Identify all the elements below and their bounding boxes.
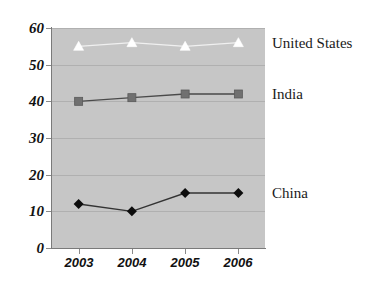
data-point [180, 188, 190, 198]
legend-label-china: China [272, 186, 308, 201]
legend-label-united-states: United States [272, 36, 352, 51]
x-axis-label: 2004 [102, 256, 162, 269]
series-line [79, 193, 239, 211]
x-axis-label: 2003 [49, 256, 109, 269]
y-axis-label: 10 [0, 204, 52, 219]
data-point [127, 206, 137, 216]
plot-area [52, 28, 265, 248]
series-layer [52, 28, 265, 248]
data-point [128, 94, 136, 102]
line-chart: 0102030405060 2003200420052006 United St… [0, 0, 381, 289]
x-axis-label: 2006 [208, 256, 268, 269]
data-point [74, 199, 84, 209]
x-axis-line [51, 248, 266, 249]
series-line [79, 94, 239, 101]
series-china [74, 188, 244, 216]
x-tick-mark-2003 [79, 249, 80, 254]
legend-label-india: India [272, 87, 303, 102]
y-axis-label: 20 [0, 168, 52, 183]
series-india [75, 90, 243, 105]
series-line [79, 43, 239, 47]
x-tick-mark-2004 [132, 249, 133, 254]
data-point [233, 188, 243, 198]
data-point [234, 90, 242, 98]
y-axis-label: 0 [0, 241, 52, 256]
x-axis-label: 2005 [155, 256, 215, 269]
y-axis-label: 60 [0, 21, 52, 36]
data-point [127, 38, 137, 47]
y-axis-label: 50 [0, 58, 52, 73]
data-point [233, 38, 243, 47]
x-tick-mark-2005 [185, 249, 186, 254]
y-axis-label: 30 [0, 131, 52, 146]
x-tick-mark-2006 [238, 249, 239, 254]
y-axis-label: 40 [0, 94, 52, 109]
data-point [75, 97, 83, 105]
series-united-states [74, 38, 244, 51]
data-point [181, 90, 189, 98]
